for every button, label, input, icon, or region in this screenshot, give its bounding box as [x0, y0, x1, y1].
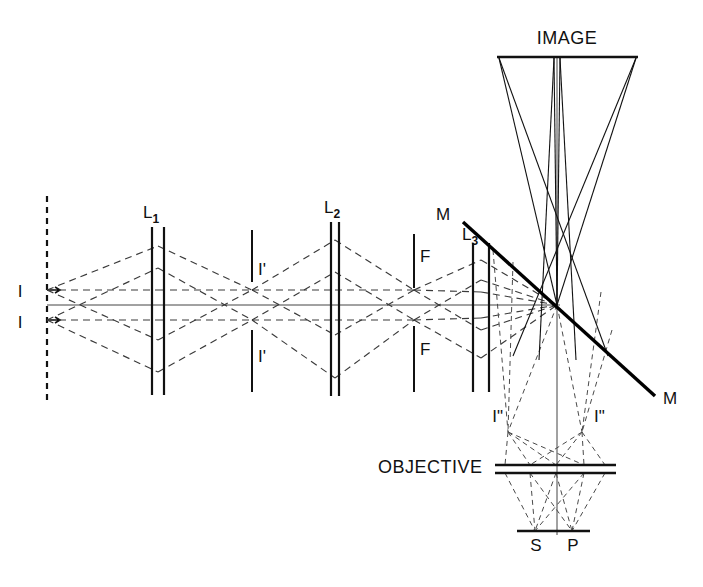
- mirror-top-label: M: [436, 205, 450, 224]
- F-lower-label: F: [420, 340, 430, 359]
- F-upper-label: F: [420, 247, 430, 266]
- I-double-prime-left-label: I": [492, 407, 503, 426]
- canvas-background: [0, 0, 703, 587]
- optical-diagram: IMAGE L1 I' I' L2 F F L3 M M I" I": [0, 0, 703, 587]
- source-lower-label: I: [18, 313, 23, 332]
- I-double-prime-right-label: I": [594, 407, 605, 426]
- I-prime-lower-label: I': [258, 347, 266, 366]
- mirror-bottom-label: M: [663, 389, 677, 408]
- stop-P-label: P: [567, 536, 578, 555]
- stop-S-label: S: [530, 536, 541, 555]
- I-prime-upper-label: I': [258, 260, 266, 279]
- source-upper-label: I: [18, 282, 23, 301]
- image-label: IMAGE: [537, 28, 598, 48]
- objective-label: OBJECTIVE: [378, 457, 483, 477]
